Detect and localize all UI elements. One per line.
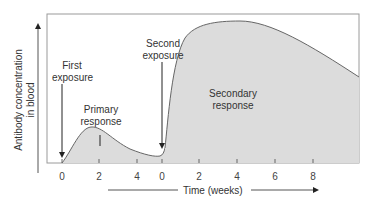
- second-exposure-label: Second exposure: [140, 38, 186, 62]
- x-tick-label: 0: [59, 171, 65, 182]
- y-axis-label: Antibody concentration in blood: [13, 49, 37, 151]
- secondary-line2: response: [206, 100, 260, 112]
- diagram-graphics: [0, 0, 374, 209]
- first-exposure-label: First exposure: [52, 60, 92, 84]
- secondary-line1: Secondary: [206, 88, 260, 100]
- x-tick-label: 0: [159, 171, 165, 182]
- primary-line1: Primary: [78, 104, 124, 116]
- x-tick-label: 8: [310, 171, 316, 182]
- second-exposure-line2: exposure: [140, 50, 186, 62]
- x-tick-label: 2: [196, 171, 202, 182]
- x-tick-label: 6: [272, 171, 278, 182]
- secondary-response-label: Secondary response: [206, 88, 260, 112]
- y-axis-label-line2: in blood: [25, 49, 37, 151]
- second-exposure-line1: Second: [140, 38, 186, 50]
- y-axis-label-line1: Antibody concentration: [13, 49, 25, 151]
- x-tick-label: 2: [96, 171, 102, 182]
- antibody-response-diagram: First exposure Second exposure Primary r…: [0, 0, 374, 209]
- primary-line2: response: [78, 116, 124, 128]
- x-axis-label: Time (weeks): [183, 185, 243, 196]
- primary-response-label: Primary response: [78, 104, 124, 128]
- x-tick-label: 4: [234, 171, 240, 182]
- first-exposure-line2: exposure: [52, 72, 92, 84]
- x-tick-label: 4: [134, 171, 140, 182]
- first-exposure-line1: First: [52, 60, 92, 72]
